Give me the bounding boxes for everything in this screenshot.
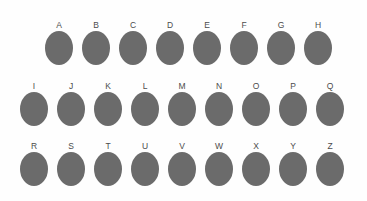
blob-shape[interactable] [131, 92, 159, 126]
blob-cell[interactable]: V [168, 141, 196, 186]
blob-shape[interactable] [267, 31, 295, 65]
blob-cell[interactable]: W [205, 141, 233, 186]
blob-label: S [68, 141, 74, 151]
blob-label: N [216, 81, 222, 91]
blob-label: T [105, 141, 110, 151]
blob-shape[interactable] [279, 152, 307, 186]
blob-cell[interactable]: J [57, 81, 85, 126]
blob-label: P [290, 81, 296, 91]
blob-shape[interactable] [168, 92, 196, 126]
blob-shape[interactable] [20, 92, 48, 126]
blob-cell[interactable]: Z [316, 141, 344, 186]
blob-cell[interactable]: P [279, 81, 307, 126]
blob-cell[interactable]: K [94, 81, 122, 126]
blob-cell[interactable]: F [230, 20, 258, 65]
blob-shape[interactable] [205, 152, 233, 186]
blob-label: A [56, 20, 62, 30]
blob-shape[interactable] [45, 31, 73, 65]
blob-cell[interactable]: A [45, 20, 73, 65]
blob-shape[interactable] [205, 92, 233, 126]
blob-cell[interactable]: O [242, 81, 270, 126]
blob-shape[interactable] [119, 31, 147, 65]
blob-cell[interactable]: E [193, 20, 221, 65]
figure-canvas: A B C D E F G H [0, 0, 367, 201]
blob-cell[interactable]: Y [279, 141, 307, 186]
blob-shape[interactable] [168, 152, 196, 186]
blob-cell[interactable]: M [168, 81, 196, 126]
blob-label: Y [290, 141, 296, 151]
blob-label: M [178, 81, 185, 91]
blob-cell[interactable]: B [82, 20, 110, 65]
blob-shape[interactable] [57, 152, 85, 186]
blob-label: C [130, 20, 136, 30]
blob-cell[interactable]: C [119, 20, 147, 65]
blob-label: Q [327, 81, 334, 91]
blob-label: W [215, 141, 223, 151]
blob-cell[interactable]: I [20, 81, 48, 126]
blob-label: F [241, 20, 246, 30]
blob-shape[interactable] [279, 92, 307, 126]
blob-label: R [31, 141, 37, 151]
blob-shape[interactable] [242, 152, 270, 186]
blob-shape[interactable] [316, 92, 344, 126]
blob-label: G [278, 20, 285, 30]
blob-shape[interactable] [316, 152, 344, 186]
blob-row-3: R S T U V W X Y [20, 141, 344, 186]
blob-shape[interactable] [193, 31, 221, 65]
blob-cell[interactable]: D [156, 20, 184, 65]
blob-label: E [204, 20, 210, 30]
blob-shape[interactable] [156, 31, 184, 65]
blob-label: Z [327, 141, 332, 151]
blob-label: O [253, 81, 260, 91]
blob-cell[interactable]: H [304, 20, 332, 65]
blob-label: U [142, 141, 148, 151]
blob-shape[interactable] [94, 152, 122, 186]
blob-label: H [315, 20, 321, 30]
blob-shape[interactable] [57, 92, 85, 126]
blob-shape[interactable] [304, 31, 332, 65]
blob-cell[interactable]: U [131, 141, 159, 186]
blob-label: K [105, 81, 111, 91]
blob-label: I [33, 81, 35, 91]
blob-label: D [167, 20, 173, 30]
blob-row-1: A B C D E F G H [45, 20, 332, 65]
blob-label: L [143, 81, 148, 91]
blob-shape[interactable] [94, 92, 122, 126]
blob-cell[interactable]: Q [316, 81, 344, 126]
blob-cell[interactable]: X [242, 141, 270, 186]
blob-cell[interactable]: R [20, 141, 48, 186]
blob-label: J [69, 81, 73, 91]
blob-cell[interactable]: G [267, 20, 295, 65]
blob-shape[interactable] [131, 152, 159, 186]
blob-row-2: I J K L M N O P [20, 81, 344, 126]
blob-cell[interactable]: N [205, 81, 233, 126]
blob-label: X [253, 141, 259, 151]
blob-shape[interactable] [230, 31, 258, 65]
blob-label: V [179, 141, 185, 151]
blob-cell[interactable]: S [57, 141, 85, 186]
blob-shape[interactable] [20, 152, 48, 186]
blob-label: B [93, 20, 99, 30]
blob-shape[interactable] [242, 92, 270, 126]
blob-cell[interactable]: T [94, 141, 122, 186]
blob-cell[interactable]: L [131, 81, 159, 126]
blob-shape[interactable] [82, 31, 110, 65]
